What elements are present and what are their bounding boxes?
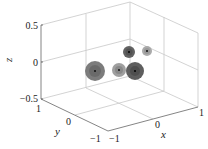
y-axis-label: y: [54, 125, 60, 137]
x-axis-label: x: [160, 128, 166, 140]
marker-3: [126, 62, 144, 80]
z-tick-top: 0.5: [26, 20, 39, 31]
x-tick-0: 0: [155, 119, 160, 130]
scatter3d-chart: 0.5 0 −0.5 z 1 0 −1 y −1 0 1 x: [0, 0, 208, 149]
marker-1: [85, 61, 105, 81]
y-tick-m1: −1: [90, 133, 101, 144]
marker-5: [142, 46, 152, 56]
axes-box: [41, 2, 198, 119]
marker-4: [123, 46, 135, 58]
marker-2: [112, 63, 126, 77]
markers: [85, 46, 152, 81]
z-axis-label: z: [2, 57, 14, 63]
x-tick-1: 1: [199, 107, 204, 118]
x-tick-m1: −1: [109, 133, 120, 144]
y-tick-1: 1: [36, 103, 41, 114]
z-tick-mid: 0: [33, 57, 38, 68]
front-axes: [41, 25, 198, 131]
y-tick-0: 0: [66, 116, 71, 127]
